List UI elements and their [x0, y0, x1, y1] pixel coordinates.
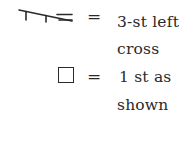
equals-sign: =: [87, 7, 101, 25]
key-description-line1: 1 st as: [119, 68, 172, 86]
key-description-line2: shown: [117, 96, 169, 114]
square-stitch-icon: [58, 67, 74, 83]
key-description-line2: cross: [117, 40, 159, 58]
equals-sign: =: [87, 67, 101, 85]
left-cross-icon: [17, 7, 75, 25]
key-description-line1: 3-st left: [117, 13, 179, 31]
